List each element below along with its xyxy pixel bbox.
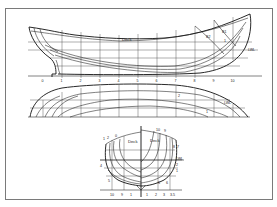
profile-view: Deck LWL B1 B2 1 0 1 2 3 4 5 6 7 8 9 10: [28, 14, 262, 83]
body-scale-label: 9: [121, 193, 123, 197]
plan-waterline-lwl: [45, 91, 240, 117]
buttock-label-b2: B2: [206, 35, 210, 39]
body-lwl-label: LWL: [176, 157, 183, 161]
station-label-7: 7: [175, 79, 177, 83]
plan-line-label-1: 1: [206, 110, 208, 114]
body-plan-view: Deck Deck LWL 1 2 0 4 5 10 9 8 7 2 1 5 6…: [100, 126, 184, 197]
plan-view: 2 1 LWL: [28, 84, 250, 117]
body-left-label-2: 2: [107, 136, 109, 140]
body-right-label-8: 8: [173, 145, 175, 149]
station-label-9: 9: [213, 79, 215, 83]
body-right-label-7: 7: [177, 145, 179, 149]
body-right-label-10: 10: [156, 128, 160, 132]
body-deck-label-left: Deck: [128, 139, 138, 144]
profile-lwl-label: LWL: [248, 48, 255, 52]
body-station-fwd-6: [141, 131, 154, 162]
plan-stern-curve-2: [52, 96, 78, 117]
body-left-label-4: 4: [100, 164, 102, 168]
station-label-5: 5: [137, 79, 139, 83]
body-station-aft-2: [114, 141, 142, 177]
body-scale-label: 3.5: [170, 193, 175, 197]
body-left-label-5: 5: [108, 179, 110, 183]
lines-drawing: Deck LWL B1 B2 1 0 1 2 3 4 5 6 7 8 9 10: [0, 0, 277, 207]
plan-lwl-label: LWL: [224, 101, 231, 105]
body-scale-labels: 10 9 1 1 2 3 3.5: [110, 193, 175, 197]
body-right-label-2: 2: [176, 163, 178, 167]
body-scale-label: 1: [146, 193, 148, 197]
plan-station-lines: [43, 84, 233, 117]
station-label-2: 2: [80, 79, 82, 83]
body-right-label-1: 1: [176, 169, 178, 173]
profile-deck-label: Deck: [122, 37, 132, 42]
station-label-8: 8: [194, 79, 196, 83]
keel-and-stem: [58, 14, 251, 75]
body-left-label-1: 1: [103, 137, 105, 141]
body-right-label-5: 5: [158, 181, 160, 185]
plan-waterline-1: [70, 106, 208, 117]
profile-waterlines: [28, 42, 258, 66]
body-scale-label: 2: [155, 193, 157, 197]
stern-profile: [29, 27, 56, 77]
station-label-0: 0: [42, 79, 44, 83]
body-scale-label: 3: [163, 193, 165, 197]
body-right-label-6: 6: [166, 181, 168, 185]
plan-line-label-2: 2: [178, 94, 180, 98]
buttock-label-b1: B1: [222, 30, 226, 34]
buttock-line-1: [45, 22, 246, 66]
body-right-label-9: 9: [164, 129, 166, 133]
body-left-label-0: 0: [115, 134, 117, 138]
station-label-1: 1: [61, 79, 63, 83]
body-scale-label: 10: [110, 193, 114, 197]
profile-station-scale: 0 1 2 3 4 5 6 7 8 9 10: [42, 79, 235, 83]
body-scale-label: 1: [130, 193, 132, 197]
station-label-10: 10: [231, 79, 235, 83]
rudder-post: [56, 60, 60, 74]
buttock-label-1: 1: [224, 39, 226, 43]
station-label-6: 6: [156, 79, 158, 83]
station-label-4: 4: [118, 79, 120, 83]
deck-line: [31, 18, 248, 41]
station-label-3: 3: [99, 79, 101, 83]
body-deck-label-right: Deck: [150, 138, 160, 143]
